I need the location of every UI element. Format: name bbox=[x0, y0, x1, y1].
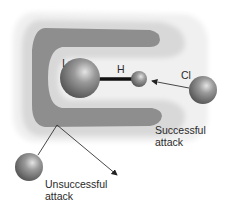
hydrogen-label: H bbox=[117, 63, 125, 75]
hydrogen-atom bbox=[131, 71, 147, 87]
unsuccessful-line2: attack bbox=[45, 190, 107, 202]
iodine-label: I bbox=[62, 57, 65, 69]
unsuccessful-line1: Unsuccessful bbox=[45, 178, 107, 190]
successful-line2: attack bbox=[155, 136, 206, 148]
iodine-atom bbox=[60, 58, 100, 98]
successful-line1: Successful bbox=[155, 124, 206, 136]
unsuccessful-chlorine-atom bbox=[15, 153, 43, 181]
chlorine-label: Cl bbox=[181, 69, 191, 81]
unsuccessful-attack-label: Unsuccessful attack bbox=[45, 178, 107, 202]
successful-attack-label: Successful attack bbox=[155, 124, 206, 148]
reaction-diagram bbox=[0, 0, 231, 205]
chlorine-atom bbox=[189, 76, 217, 104]
